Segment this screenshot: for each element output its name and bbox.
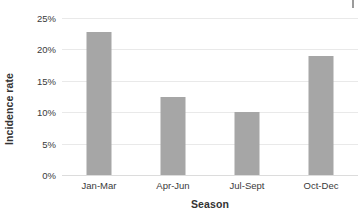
x-axis-tick-label: Jul-Sept [230,180,265,191]
bars-group [62,18,358,175]
bar[interactable] [235,112,260,175]
bar-chart: Incidence rate 0%5%10%15%20%25% Jan-MarA… [0,0,362,218]
bar-slot [284,18,358,175]
bar-slot [62,18,136,175]
bar[interactable] [87,32,112,175]
y-axis-tick-label: 0% [16,170,56,181]
x-axis-title: Season [62,198,358,210]
bar[interactable] [161,97,186,176]
gridline [62,175,358,176]
bar-slot [136,18,210,175]
y-axis-tick-label: 15% [16,75,56,86]
bar[interactable] [309,56,334,175]
x-axis-tick-label: Jan-Mar [82,180,117,191]
x-axis-tick-label: Apr-Jun [156,180,189,191]
y-axis-tick-label: 25% [16,13,56,24]
y-axis-tick-label: 20% [16,44,56,55]
y-axis-tick-label: 10% [16,107,56,118]
bar-slot [210,18,284,175]
plot-area [62,18,358,175]
x-axis-tick-label: Oct-Dec [304,180,339,191]
y-axis-tick-label: 5% [16,138,56,149]
corner-artifact-mark [352,0,354,8]
